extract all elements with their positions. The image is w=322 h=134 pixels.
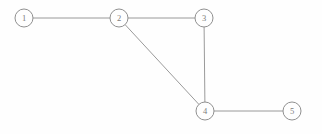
graph-node-5[interactable]: 5 <box>283 102 301 120</box>
graph-node-3[interactable]: 3 <box>195 9 213 27</box>
graph-node-label-3: 3 <box>202 13 206 23</box>
graph-node-label-1: 1 <box>22 13 26 23</box>
graph-node-1[interactable]: 1 <box>15 9 33 27</box>
graph-svg: 12345 <box>0 0 322 134</box>
graph-node-4[interactable]: 4 <box>196 102 214 120</box>
graph-node-label-2: 2 <box>117 13 121 23</box>
graph-node-label-5: 5 <box>290 106 294 116</box>
graph-edge-2-4[interactable] <box>125 25 199 105</box>
graph-edge-3-4[interactable] <box>204 27 205 102</box>
graph-node-2[interactable]: 2 <box>110 9 128 27</box>
graph-diagram-canvas: 12345 <box>0 0 322 134</box>
edge-layer <box>33 18 283 111</box>
node-layer: 12345 <box>15 9 301 120</box>
